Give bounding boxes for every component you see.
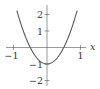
parabola-chart: x −1121−1−2 <box>0 0 100 89</box>
y-tick-label: 1 <box>37 26 43 37</box>
y-tick-label: −2 <box>29 75 43 86</box>
x-tick-label: 1 <box>77 50 83 61</box>
x-tick-label: −1 <box>4 50 18 61</box>
x-axis-label: x <box>90 41 96 52</box>
y-tick-label: 2 <box>37 9 43 20</box>
y-tick-label: −1 <box>29 59 43 70</box>
